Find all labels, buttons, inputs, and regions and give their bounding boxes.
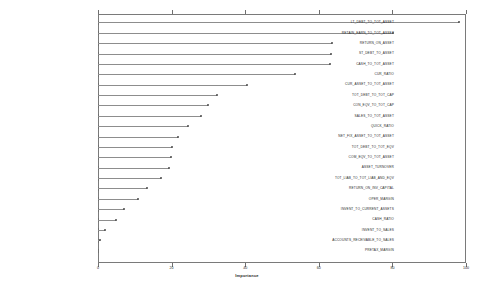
- bar-line: [98, 54, 331, 55]
- x-tick-label: 20: [170, 266, 174, 270]
- bar-row: [0, 168, 494, 169]
- bar-line: [98, 209, 124, 210]
- bar-endpoint-marker: [115, 219, 117, 221]
- bar-line: [98, 43, 332, 44]
- bar-endpoint-marker: [177, 136, 179, 138]
- x-tick-label: 80: [390, 266, 394, 270]
- bar-row: [0, 74, 494, 75]
- bar-line: [98, 137, 178, 138]
- bar-endpoint-marker: [330, 53, 332, 55]
- bar-line: [98, 116, 201, 117]
- y-axis-tick-label: NET_FIX_ASSET_TO_TOT_ASSET: [338, 134, 394, 138]
- bar-endpoint-marker: [137, 198, 139, 200]
- x-tick-label: 60: [317, 266, 321, 270]
- bar-row: [0, 33, 494, 34]
- bar-row: [0, 43, 494, 44]
- y-axis-tick-label: ACCOUNTS_RECEIVABLE_TO_SALES: [332, 238, 394, 242]
- bar-row: [0, 64, 494, 65]
- y-axis-tick-label: CUR_RATIO: [374, 72, 394, 76]
- bar-origin-tick: [98, 249, 99, 253]
- bar-endpoint-marker: [171, 146, 173, 148]
- x-tick-label: 0: [97, 266, 99, 270]
- bar-row: [0, 22, 494, 23]
- bar-line: [98, 199, 138, 200]
- bar-line: [98, 74, 295, 75]
- y-axis-tick-label: ASSET_TURNOVER: [362, 165, 394, 169]
- x-axis-title: Importance: [0, 273, 494, 278]
- bar-line: [98, 64, 330, 65]
- bar-row: [0, 147, 494, 148]
- bar-line: [98, 95, 217, 96]
- bar-endpoint-marker: [329, 63, 331, 65]
- y-axis-tick-label: INVENT_TO_CURRENT_ASSETS: [341, 207, 394, 211]
- bar-line: [98, 188, 147, 189]
- bar-row: [0, 220, 494, 221]
- bar-line: [98, 147, 172, 148]
- y-axis-tick-label: CASH_RATIO: [372, 217, 394, 221]
- bar-row: [0, 188, 494, 189]
- x-tick-mark-top: [245, 10, 246, 14]
- bar-endpoint-marker: [160, 177, 162, 179]
- y-axis-tick-label: TOT_DEBT_TO_TOT_EQV: [352, 145, 394, 149]
- bar-endpoint-marker: [123, 208, 125, 210]
- x-tick-mark-top: [466, 10, 467, 14]
- bar-endpoint-marker: [246, 84, 248, 86]
- y-axis-tick-label: RETURN_ON_ASSET: [360, 41, 394, 45]
- y-axis-tick-label: COM_EQV_TO_TOT_ASSET: [349, 155, 394, 159]
- y-axis-tick-label: OPER_MARGIN: [369, 197, 394, 201]
- x-tick-label: 100: [463, 266, 469, 270]
- bar-line: [98, 157, 171, 158]
- bar-line: [98, 220, 116, 221]
- bar-endpoint-marker: [99, 239, 101, 241]
- bar-endpoint-marker: [294, 73, 296, 75]
- bar-endpoint-marker: [331, 42, 333, 44]
- bar-endpoint-marker: [216, 94, 218, 96]
- bar-row: [0, 251, 494, 252]
- x-tick-mark-top: [98, 10, 99, 14]
- y-axis-tick-label: CASH_TO_TOT_ASSET: [356, 62, 394, 66]
- y-axis-tick-label: QUICK_RATIO: [371, 124, 394, 128]
- bar-endpoint-marker: [187, 125, 189, 127]
- y-axis-tick-label: LT_DEBT_TO_TOT_ASSET: [351, 20, 394, 24]
- y-axis-tick-label: CUR_ASSET_TO_TOT_ASSET: [345, 82, 394, 86]
- x-tick-mark-top: [319, 10, 320, 14]
- bar-line: [98, 85, 247, 86]
- bar-row: [0, 137, 494, 138]
- bar-endpoint-marker: [170, 156, 172, 158]
- x-tick-label: 40: [243, 266, 247, 270]
- bar-row: [0, 178, 494, 179]
- bar-row: [0, 54, 494, 55]
- bar-line: [98, 168, 169, 169]
- y-axis-tick-label: ST_DEBT_TO_ASSET: [359, 51, 394, 55]
- feature-importance-chart: LT_DEBT_TO_TOT_ASSETRETAIN_EARN_TO_TOT_A…: [0, 0, 494, 290]
- bar-row: [0, 209, 494, 210]
- bar-endpoint-marker: [168, 167, 170, 169]
- bar-endpoint-marker: [104, 229, 106, 231]
- bar-row: [0, 85, 494, 86]
- y-axis-tick-label: RETAIN_EARN_TO_TOT_ASSET: [342, 31, 394, 35]
- bar-row: [0, 116, 494, 117]
- y-axis-tick-label: TOT_LIAB_TO_TOT_LIAB_AND_EQV: [335, 176, 394, 180]
- bar-line: [98, 22, 459, 23]
- bar-row: [0, 240, 494, 241]
- x-tick-mark-top: [392, 10, 393, 14]
- bar-endpoint-marker: [200, 115, 202, 117]
- y-axis-tick-label: PRETAX_MARGIN: [365, 248, 394, 252]
- y-axis-tick-label: CON_EQV_TO_TOT_CAP: [353, 103, 394, 107]
- x-tick-mark-top: [172, 10, 173, 14]
- plot-area: [98, 14, 466, 263]
- y-axis-tick-label: TOT_DEBT_TO_TOT_CAP: [352, 93, 394, 97]
- bar-row: [0, 157, 494, 158]
- bar-line: [98, 126, 188, 127]
- y-axis-tick-label: SALES_TO_TOT_ASSET: [355, 114, 394, 118]
- bar-line: [98, 105, 208, 106]
- y-axis-tick-label: INVENT_TO_SALES: [362, 228, 394, 232]
- bar-row: [0, 199, 494, 200]
- bar-row: [0, 126, 494, 127]
- bar-row: [0, 230, 494, 231]
- y-axis-tick-label: RETURN_ON_INV_CAPITAL: [349, 186, 394, 190]
- bar-line: [98, 178, 161, 179]
- bar-row: [0, 95, 494, 96]
- bar-row: [0, 105, 494, 106]
